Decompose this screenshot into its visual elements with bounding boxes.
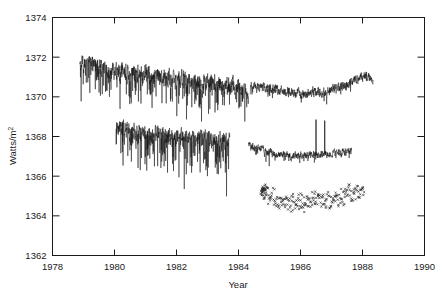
scatter-point (352, 200, 354, 202)
scatter-point (359, 193, 361, 195)
scatter-point (357, 191, 359, 193)
scatter-point (294, 207, 296, 209)
y-tick-label: 1368 (25, 131, 46, 142)
scatter-point (298, 208, 300, 210)
y-tick-label: 1372 (25, 52, 46, 63)
y-tick-label: 1362 (25, 250, 46, 261)
middle-irradiance-series (116, 120, 352, 197)
x-tick-label: 1978 (42, 261, 63, 272)
scatter-point (320, 206, 322, 208)
scatter-point (303, 211, 305, 213)
scatter-point (302, 207, 304, 209)
chart-figure: 1362136413661368137013721374 19781980198… (0, 0, 443, 298)
y-axis-title: Watts/m2 (7, 127, 18, 165)
scatter-point (300, 199, 302, 201)
scatter-point (273, 188, 275, 190)
scatter-point (287, 208, 289, 210)
scatter-point (303, 196, 305, 198)
y-tick-label: 1374 (25, 12, 46, 23)
scatter-point (325, 205, 327, 207)
scatter-point (328, 207, 330, 209)
scatter-point (347, 186, 349, 188)
y-axis-tick-labels: 1362136413661368137013721374 (25, 12, 46, 261)
scatter-irradiance-series (260, 184, 366, 214)
y-tick-label: 1366 (25, 171, 46, 182)
scatter-point (340, 188, 342, 190)
solar-irradiance-chart: 1362136413661368137013721374 19781980198… (0, 0, 443, 298)
scatter-point (318, 197, 320, 199)
scatter-point (276, 198, 278, 200)
scatter-point (349, 194, 351, 196)
x-tick-label: 1982 (166, 261, 187, 272)
scatter-point (337, 199, 339, 201)
scatter-point (331, 202, 333, 204)
scatter-point (286, 204, 288, 206)
scatter-point (335, 192, 337, 194)
scatter-point (322, 193, 324, 195)
scatter-point (292, 193, 294, 195)
scatter-point (301, 194, 303, 196)
upper-irradiance-series (80, 56, 373, 122)
scatter-point (271, 192, 273, 194)
y-tick-label: 1364 (25, 210, 46, 221)
scatter-point (344, 193, 346, 195)
scatter-point (311, 191, 313, 193)
scatter-point (355, 198, 357, 200)
y-tick-label: 1370 (25, 91, 46, 102)
plot-frame (53, 18, 425, 256)
scatter-point (316, 203, 318, 205)
scatter-point (312, 199, 314, 201)
data-series-layer (80, 56, 373, 214)
series-line-segment (80, 56, 249, 122)
series-line-segment (248, 120, 351, 167)
x-tick-label: 1980 (104, 261, 125, 272)
scatter-point (353, 193, 355, 195)
scatter-point (362, 194, 364, 196)
scatter-point (267, 194, 269, 196)
scatter-point (327, 191, 329, 193)
scatter-point (363, 191, 365, 193)
x-tick-label: 1990 (414, 261, 435, 272)
x-tick-label: 1988 (352, 261, 373, 272)
scatter-point (297, 197, 299, 199)
scatter-point (276, 196, 278, 198)
series-line-segment (116, 120, 230, 197)
scatter-point (343, 190, 345, 192)
scatter-point (314, 190, 316, 192)
series-line-segment (250, 72, 373, 105)
scatter-point (284, 206, 286, 208)
scatter-point (289, 197, 291, 199)
scatter-point (274, 201, 276, 203)
scatter-point (334, 200, 336, 202)
scatter-point (320, 202, 322, 204)
scatter-point (311, 204, 313, 206)
scatter-point (292, 209, 294, 211)
scatter-point (344, 196, 346, 198)
x-axis-title: Year (228, 279, 247, 290)
scatter-point (284, 204, 286, 206)
scatter-point (269, 199, 271, 201)
scatter-point (297, 194, 299, 196)
x-tick-label: 1984 (228, 261, 249, 272)
scatter-point (267, 203, 269, 205)
x-axis-tick-labels: 1978198019821984198619881990 (42, 261, 435, 272)
scatter-point (295, 199, 297, 201)
scatter-point (313, 193, 315, 195)
scatter-point (288, 200, 290, 202)
x-tick-label: 1986 (290, 261, 311, 272)
scatter-point (338, 194, 340, 196)
